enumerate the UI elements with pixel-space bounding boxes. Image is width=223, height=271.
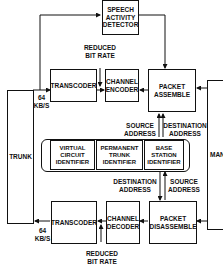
source-address-label-bottom: SOURCE ADDRESS — [166, 178, 202, 193]
packet-assemble-block: PACKET ASSEMBLE — [148, 69, 196, 112]
packet-disassemble-block: PACKET DISASSEMBLE — [149, 201, 197, 244]
source-address-label-top: SOURCE ADDRESS — [122, 122, 158, 137]
speech-activity-detector-block: SPEECH ACTIVITY DETECTOR — [102, 0, 139, 35]
reduced-bit-rate-label-top: REDUCED BIT RATE — [80, 44, 120, 59]
channel-decoder-block: CHANNEL DECODER — [106, 201, 140, 244]
rate-label-bottom: 64 KB/S — [34, 227, 51, 242]
transcoder-bottom-block: TRANSCODER — [51, 201, 97, 244]
rate-label-top: 64 KB/S — [33, 94, 50, 109]
man-block: MAN — [207, 80, 223, 230]
destination-address-label-bottom: DESTINATION ADDRESS — [112, 178, 158, 193]
transcoder-top-block: TRANSCODER — [50, 69, 97, 102]
trunk-block: TRUNK — [7, 90, 34, 224]
virtual-circuit-identifier: VIRTUAL CIRCUIT IDENTIFIER — [50, 140, 95, 170]
reduced-bit-rate-label-bottom: REDUCED BIT RATE — [82, 250, 122, 265]
channel-encoder-block: CHANNEL ENCODER — [105, 69, 139, 102]
permanent-trunk-identifier: PERMANENT TRUNK IDENTIFIER — [96, 140, 143, 170]
base-station-identifier: BASE STATION IDENTIFIER — [144, 140, 184, 170]
destination-address-label-top: DESTINATION ADDRESS — [162, 122, 208, 137]
